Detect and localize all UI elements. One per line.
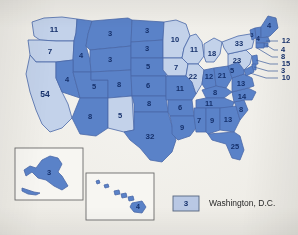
hawaii-inset-frame: [86, 173, 154, 220]
label-TX: 32: [146, 132, 155, 141]
label-MN: 10: [171, 35, 179, 44]
legend-swatch-value: 3: [184, 199, 189, 208]
label-ND: 3: [145, 26, 149, 35]
label-IA: 7: [174, 63, 178, 72]
label-NH: 4: [256, 35, 260, 42]
label-MO: 11: [176, 84, 184, 93]
callout-labels: 12 4 8 15 3 10: [281, 36, 290, 82]
label-NC: 14: [238, 92, 247, 101]
label-NE: 5: [146, 62, 150, 71]
label-SD: 3: [145, 44, 149, 53]
label-KY: 8: [213, 88, 217, 97]
label-WV: 5: [230, 66, 234, 75]
label-AK: 3: [47, 168, 51, 177]
label-OK: 8: [147, 99, 151, 108]
legend-label: Washington, D.C.: [209, 198, 275, 208]
legend: 3 Washington, D.C.: [173, 196, 275, 211]
state-TN[interactable]: [196, 98, 234, 108]
label-LA: 9: [180, 123, 184, 132]
label-AR: 6: [178, 103, 182, 112]
electoral-college-map: 11 7 54 4 4 3 3 5 8 8 5 3 3 5 6 8 32 10 …: [0, 0, 298, 235]
label-MI: 18: [208, 49, 216, 58]
label-OH: 21: [218, 71, 226, 80]
label-IL: 22: [189, 72, 197, 81]
label-IN: 12: [205, 72, 213, 81]
label-HI: 4: [136, 203, 140, 210]
label-MS: 7: [197, 116, 201, 125]
hawaii-inset: 4: [86, 173, 154, 220]
label-PA: 23: [233, 56, 241, 65]
label-AZ: 8: [88, 112, 92, 121]
label-SC: 8: [239, 105, 243, 114]
label-NM: 5: [118, 111, 122, 120]
label-FL: 25: [231, 142, 239, 151]
label-WY: 3: [108, 55, 112, 64]
label-NY: 33: [235, 39, 243, 48]
callout-MA: 12: [282, 36, 290, 45]
label-CO: 8: [117, 80, 121, 89]
label-GA: 13: [224, 115, 232, 124]
label-TN: 11: [205, 99, 213, 108]
alaska-inset: 3: [15, 148, 83, 200]
label-AL: 9: [210, 116, 214, 125]
label-UT: 5: [92, 82, 96, 91]
label-WA: 11: [50, 25, 59, 34]
label-MT: 3: [108, 29, 112, 38]
label-VA: 13: [237, 79, 245, 88]
label-KS: 6: [146, 81, 150, 90]
label-OR: 7: [48, 47, 53, 56]
state-CT[interactable]: [256, 43, 264, 48]
callout-MD: 10: [282, 73, 290, 82]
label-CA: 54: [40, 89, 50, 99]
label-WI: 11: [190, 45, 198, 54]
